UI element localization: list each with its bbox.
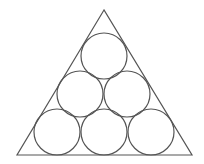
outer-triangle	[17, 10, 192, 155]
inscribed-circle-6	[128, 109, 174, 155]
inscribed-circles-group	[34, 33, 174, 155]
triangle-circle-packing-diagram	[0, 0, 204, 164]
inscribed-circle-5	[81, 109, 127, 155]
inscribed-circle-4	[34, 109, 80, 155]
